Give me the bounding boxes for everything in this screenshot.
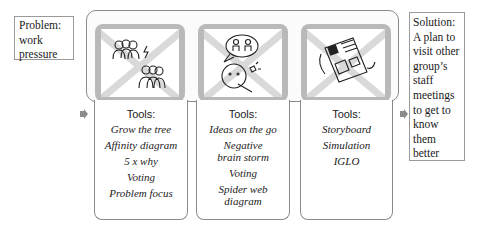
tool-item: Storyboard (305, 123, 388, 135)
stage-2-tools-card: Tools: Ideas on the go Negative brain st… (196, 100, 290, 220)
problem-text-line-2: pressure (19, 47, 73, 62)
tool-item: Affinity diagram (99, 139, 183, 151)
solution-line: know (413, 117, 464, 132)
tools-list: Grow the tree Affinity diagram 5 x why V… (95, 123, 187, 199)
solution-line: group’s (413, 59, 464, 74)
arrow-right-icon (80, 109, 88, 119)
solution-line: better (413, 146, 464, 161)
tool-item: IGLO (305, 155, 388, 167)
stage-1-tools-card: Tools: Grow the tree Affinity diagram 5 … (94, 100, 188, 220)
images-panel (86, 10, 399, 102)
tools-heading: Tools: (197, 108, 289, 120)
idea-thinking-icon (198, 24, 288, 102)
problem-box: Problem: work pressure (14, 16, 74, 60)
tools-list: Storyboard Simulation IGLO (301, 123, 392, 167)
solution-line: visit other (413, 44, 464, 59)
stage-3-image (301, 24, 391, 102)
storyboard-sketch-icon (301, 24, 391, 102)
tool-item: 5 x why (99, 155, 183, 167)
solution-line: A plan to (413, 30, 464, 45)
stage-2-image (198, 24, 288, 102)
tool-item: Ideas on the go (201, 123, 285, 135)
problem-label: Problem: (19, 18, 73, 33)
tool-item: Negative brain storm (201, 139, 285, 163)
solution-line: them (413, 132, 464, 147)
solution-label: Solution: (413, 15, 464, 30)
solution-box: Solution: A plan to visit other group’s … (409, 12, 465, 161)
solution-line: staff (413, 73, 464, 88)
people-conflict-icon (95, 24, 185, 102)
solution-line: meetings (413, 88, 464, 103)
tool-item: Spider web diagram (201, 183, 285, 207)
problem-text-line-1: work (19, 33, 73, 48)
stage-3-tools-card: Tools: Storyboard Simulation IGLO (300, 100, 393, 220)
tool-item: Grow the tree (99, 123, 183, 135)
tools-heading: Tools: (301, 108, 392, 120)
arrow-right-icon (400, 109, 408, 119)
tool-item: Simulation (305, 139, 388, 151)
tool-item: Problem focus (99, 187, 183, 199)
tools-heading: Tools: (95, 108, 187, 120)
solution-line: to get to (413, 103, 464, 118)
tool-item: Voting (99, 171, 183, 183)
tools-list: Ideas on the go Negative brain storm Vot… (197, 123, 289, 207)
stage-1-image (95, 24, 185, 102)
tool-item: Voting (201, 167, 285, 179)
